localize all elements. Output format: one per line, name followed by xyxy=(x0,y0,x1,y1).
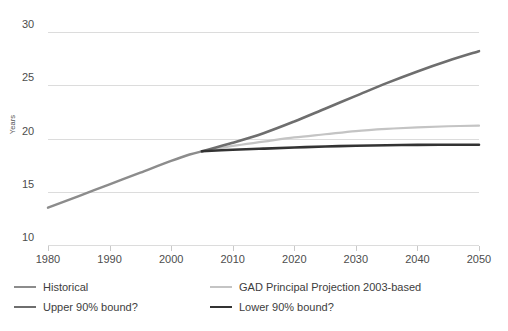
legend-label: Upper 90% bound? xyxy=(43,301,138,313)
legend-swatch-icon xyxy=(14,286,36,288)
legend-label: Historical xyxy=(43,281,88,293)
legend-label: GAD Principal Projection 2003-based xyxy=(239,281,421,293)
chart-container: Years 1015202530 19801990200020102020203… xyxy=(0,0,508,331)
legend-swatch-icon xyxy=(210,286,232,288)
legend-item[interactable]: Lower 90% bound? xyxy=(210,301,334,313)
series-line-upper-90-bound xyxy=(202,51,479,151)
legend-label: Lower 90% bound? xyxy=(239,301,334,313)
legend-swatch-icon xyxy=(14,306,36,308)
series-line-historical xyxy=(48,151,202,207)
legend-item[interactable]: Historical xyxy=(14,281,88,293)
legend-item[interactable]: Upper 90% bound? xyxy=(14,301,138,313)
series-line-lower-90-bound xyxy=(202,145,479,152)
legend-swatch-icon xyxy=(210,306,232,308)
legend-item[interactable]: GAD Principal Projection 2003-based xyxy=(210,281,421,293)
